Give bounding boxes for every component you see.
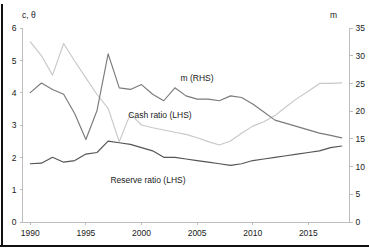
x-tick-label: 2015 <box>299 228 318 238</box>
right-tick-label: 25 <box>356 79 366 89</box>
series-annotation: Cash ratio (LHS) <box>128 110 191 120</box>
series-annotation: m (RHS) <box>180 73 213 83</box>
x-tick-label: 2000 <box>132 228 151 238</box>
right-tick-label: 0 <box>356 217 361 227</box>
left-tick-label: 0 <box>12 217 17 227</box>
right-tick-label: 35 <box>356 23 366 33</box>
left-tick-label: 2 <box>12 153 17 163</box>
right-tick-label: 30 <box>356 51 366 61</box>
x-tick-label: 1990 <box>21 228 40 238</box>
chart-background <box>0 0 369 249</box>
left-tick-label: 5 <box>12 56 17 66</box>
left-tick-label: 3 <box>12 120 17 130</box>
right-tick-label: 5 <box>356 189 361 199</box>
right-axis-title: m <box>330 10 337 20</box>
x-tick-label: 2005 <box>188 228 207 238</box>
chart-figure: 0123456 05101520253035 19901995200020052… <box>0 0 369 249</box>
series-annotation: Reserve ratio (LHS) <box>110 175 185 185</box>
x-tick-label: 2010 <box>243 228 262 238</box>
chart-canvas: 0123456 05101520253035 19901995200020052… <box>0 0 369 249</box>
left-tick-label: 1 <box>12 185 17 195</box>
x-tick-label: 1995 <box>76 228 95 238</box>
right-tick-label: 15 <box>356 134 366 144</box>
left-tick-label: 4 <box>12 88 17 98</box>
right-tick-label: 10 <box>356 162 366 172</box>
left-tick-label: 6 <box>12 23 17 33</box>
right-tick-label: 20 <box>356 106 366 116</box>
left-axis-title: c, θ <box>22 10 36 20</box>
